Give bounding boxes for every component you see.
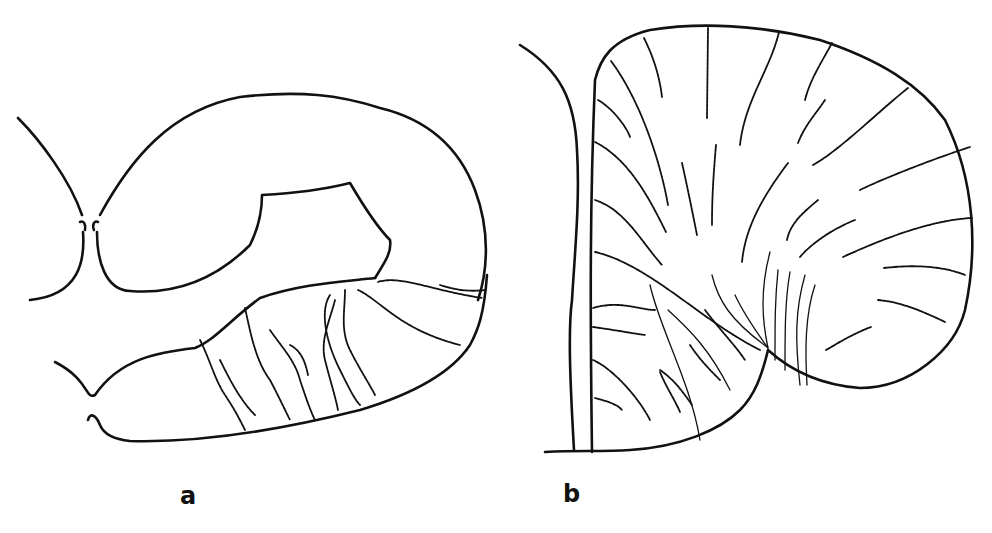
- panel-label-a: a: [180, 482, 196, 510]
- vessel-branches-a: [200, 280, 485, 430]
- panel-b-drawing: [520, 26, 972, 452]
- figure-canvas: [0, 0, 992, 533]
- panel-label-b: b: [563, 480, 580, 508]
- converging-fine-vessels-b: [650, 252, 815, 440]
- panel-a-drawing: [18, 94, 487, 441]
